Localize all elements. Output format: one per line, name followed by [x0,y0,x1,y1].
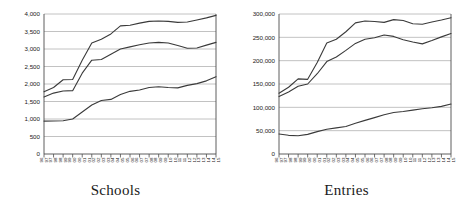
x-axis-tick-label: 0910 [163,157,173,162]
x-axis-tick-label-bottom: 15 [216,157,221,162]
x-axis-tick-label: 1112 [182,157,192,162]
x-axis-tick-label: 1314 [436,157,446,162]
charts-figure: 05001,0001,5002,0002,5003,0003,5004,0009… [0,0,462,213]
x-axis-tick-label: 9798 [283,157,293,162]
y-axis-tick-label: 50,000 [256,127,275,134]
y-axis-tick-label: 3,500 [25,28,41,35]
series-line-series-bottom [44,77,216,121]
y-axis-tick-label: 200,000 [253,57,276,64]
x-axis-tick-label: 1314 [201,157,211,162]
x-axis-tick-label: 0001 [312,157,322,162]
x-axis-tick-label: 0304 [106,157,116,162]
x-axis-tick-label: 0405 [350,157,360,162]
x-axis-tick-label: 1112 [417,157,427,162]
x-axis-tick-label: 0708 [379,157,389,162]
plot-area-schools: 05001,0001,5002,0002,5003,0003,5004,0009… [0,0,231,178]
plot-area-entries: 050,000100,000150,000200,000250,000300,0… [231,0,462,178]
x-axis-tick-label: 1415 [211,157,221,162]
x-axis-tick-label: 0203 [331,157,341,162]
y-axis-tick-label: 500 [30,133,41,140]
x-axis-tick-label: 1011 [408,157,418,162]
y-axis-tick-label: 300,000 [253,10,276,17]
x-axis-tick-label: 0102 [87,157,97,162]
x-axis-tick-label: 1415 [446,157,456,162]
y-axis-tick-label: 150,000 [253,80,276,87]
x-axis-tick-label: 9900 [67,157,77,162]
chart-title-schools: Schools [0,182,231,199]
x-axis-tick-label: 0405 [115,157,125,162]
x-axis-tick-label: 9899 [58,157,68,162]
x-axis-tick-label: 0809 [388,157,398,162]
x-axis-tick-label: 0708 [144,157,154,162]
chart-title-entries: Entries [231,182,462,199]
x-axis-tick-label: 0607 [369,157,379,162]
chart-panel-entries: 050,000100,000150,000200,000250,000300,0… [231,0,462,213]
x-axis-tick-label: 9798 [48,157,58,162]
y-axis-tick-label: 2,000 [25,80,41,87]
series-line-series-middle [44,42,216,97]
line-chart-entries: 050,000100,000150,000200,000250,000300,0… [231,0,462,178]
x-axis-tick-label: 0102 [322,157,332,162]
series-line-series-top [279,18,451,94]
y-axis-tick-label: 1,000 [25,115,41,122]
y-axis-tick-label: 0 [272,150,276,157]
x-axis-tick-label: 0001 [77,157,87,162]
line-chart-schools: 05001,0001,5002,0002,5003,0003,5004,0009… [0,0,231,178]
x-axis-tick-label: 1213 [192,157,202,162]
y-axis-tick-label: 1,500 [25,98,41,105]
x-axis-tick-label: 9899 [293,157,303,162]
x-axis-tick-label: 0607 [134,157,144,162]
series-line-series-middle [279,34,451,97]
y-axis-tick-label: 250,000 [253,34,276,41]
x-axis-tick-label: 9900 [302,157,312,162]
x-axis-tick-label-bottom: 15 [451,157,456,162]
x-axis-tick-label: 0809 [153,157,163,162]
x-axis-tick-label: 0910 [398,157,408,162]
y-axis-tick-label: 4,000 [25,10,41,17]
x-axis-tick-label: 1011 [173,157,183,162]
y-axis-tick-label: 100,000 [253,104,276,111]
x-axis-tick-label: 9697 [274,157,284,162]
x-axis-tick-label: 0506 [360,157,370,162]
x-axis-tick-label: 1213 [427,157,437,162]
y-axis-tick-label: 2,500 [25,63,41,70]
x-axis-tick-label: 9697 [39,157,49,162]
x-axis-tick-label: 0304 [341,157,351,162]
y-axis-tick-label: 3,000 [25,45,41,52]
x-axis-tick-label: 0203 [96,157,106,162]
chart-panel-schools: 05001,0001,5002,0002,5003,0003,5004,0009… [0,0,231,213]
series-line-series-top [44,15,216,91]
y-axis-tick-label: 0 [37,150,41,157]
x-axis-tick-label: 0506 [125,157,135,162]
